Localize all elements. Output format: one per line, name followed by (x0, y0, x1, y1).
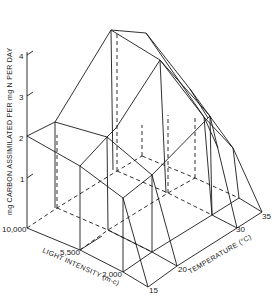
z-tick-1: 1 (20, 175, 25, 184)
temp-tick-20: 20 (178, 265, 187, 274)
temperature-axis-title: TEMPERATURE (°C) (187, 233, 253, 276)
chart-3d-wireframe: 4 3 2 1 mg CARBON ASSIMILATED PER mg N P… (0, 0, 274, 303)
z-tick-3: 3 (19, 93, 24, 102)
z-tick-4: 4 (19, 52, 24, 61)
light-axis-title: LIGHT INTENSITY (m-c) (41, 247, 120, 288)
light-axis: 10,000 5,500 2,000 LIGHT INTENSITY (m-c) (2, 225, 123, 288)
z-axis-title: mg CARBON ASSIMILATED PER mg N PER DAY (6, 47, 14, 215)
surface-top (27, 30, 233, 198)
light-tick-10000: 10,000 (2, 225, 27, 234)
hidden-grid (27, 30, 239, 252)
temperature-axis: 15 20 30 35 TEMPERATURE (°C) (149, 212, 271, 295)
temp-tick-15: 15 (149, 286, 158, 295)
z-tick-2: 2 (19, 134, 24, 143)
temp-tick-30: 30 (236, 225, 245, 234)
temp-tick-35: 35 (262, 212, 271, 221)
z-axis: 4 3 2 1 mg CARBON ASSIMILATED PER mg N P… (6, 47, 33, 228)
